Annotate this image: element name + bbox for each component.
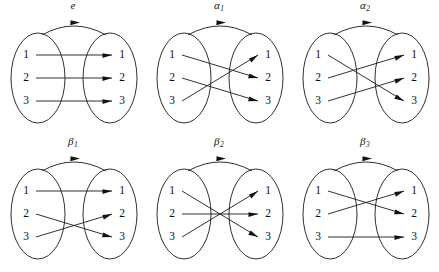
codomain-element-2: 2: [119, 71, 125, 83]
domain-element-3: 3: [315, 230, 321, 242]
codomain-element-2: 2: [265, 207, 271, 219]
arrowhead: [249, 212, 259, 217]
arrowhead: [216, 156, 226, 161]
codomain-ellipse: [83, 169, 137, 259]
arrowhead: [248, 97, 258, 102]
codomain-element-2: 2: [411, 71, 417, 83]
codomain-element-3: 3: [265, 230, 271, 242]
domain-element-3: 3: [23, 94, 29, 106]
map-arrow-1-to-2: [182, 55, 258, 78]
domain-element-3: 3: [169, 94, 175, 106]
arrowhead: [249, 191, 258, 199]
codomain-element-3: 3: [119, 94, 125, 106]
set-mapping-arc: [334, 162, 398, 171]
arrowhead: [102, 233, 112, 238]
codomain-element-1: 1: [119, 184, 125, 196]
codomain-element-3: 3: [119, 230, 125, 242]
codomain-element-3: 3: [411, 94, 417, 106]
codomain-element-3: 3: [265, 94, 271, 106]
set-mapping-arc: [188, 162, 252, 171]
domain-ellipse: [11, 169, 65, 259]
set-mapping-arc: [42, 162, 106, 171]
codomain-element-1: 1: [265, 184, 271, 196]
arrowhead: [395, 235, 405, 240]
domain-element-3: 3: [23, 230, 29, 242]
codomain-element-1: 1: [411, 184, 417, 196]
domain-ellipse: [157, 33, 211, 123]
domain-element-1: 1: [23, 184, 29, 196]
domain-ellipse: [303, 169, 357, 259]
set-mapping-arc: [334, 26, 398, 35]
domain-element-2: 2: [315, 71, 321, 83]
arrowhead: [394, 210, 404, 215]
arrowhead: [216, 20, 226, 25]
arrowhead: [103, 189, 113, 194]
domain-element-2: 2: [169, 71, 175, 83]
permutation-diagram-figure: e123123α1123123α2123123β1123123β2123123β…: [0, 0, 439, 272]
domain-element-1: 1: [169, 48, 175, 60]
codomain-element-1: 1: [411, 48, 417, 60]
codomain-element-2: 2: [119, 207, 125, 219]
domain-ellipse: [303, 33, 357, 123]
panel-beta1: β1123123: [0, 136, 146, 272]
arrowhead: [249, 55, 258, 63]
set-mapping-arc: [188, 26, 252, 35]
arrowhead: [70, 156, 80, 161]
map-arrow-3-to-2: [328, 78, 404, 101]
domain-element-1: 1: [23, 48, 29, 60]
panel-alpha2: α2123123: [292, 0, 438, 136]
panel-beta2: β2123123: [146, 136, 292, 272]
codomain-element-1: 1: [265, 48, 271, 60]
map-arrow-2-to-1: [328, 55, 404, 78]
panel-e: e123123: [0, 0, 146, 136]
domain-element-3: 3: [315, 94, 321, 106]
domain-element-1: 1: [315, 184, 321, 196]
arrowhead: [362, 156, 372, 161]
panel-beta3: β3123123: [292, 136, 438, 272]
arrowhead: [103, 76, 113, 81]
map-arrow-2-to-3: [182, 78, 258, 101]
domain-element-2: 2: [315, 207, 321, 219]
arrowhead: [103, 99, 113, 104]
codomain-element-2: 2: [265, 71, 271, 83]
codomain-element-1: 1: [119, 48, 125, 60]
codomain-element-3: 3: [411, 230, 417, 242]
set-mapping-arc: [42, 26, 106, 35]
arrowhead: [103, 53, 113, 58]
arrowhead: [394, 78, 404, 84]
arrowhead: [102, 214, 112, 220]
domain-element-1: 1: [169, 184, 175, 196]
arrowhead: [394, 191, 404, 197]
arrowhead: [362, 20, 372, 25]
arrowhead: [394, 55, 404, 61]
codomain-element-2: 2: [411, 207, 417, 219]
codomain-ellipse: [375, 33, 429, 123]
domain-element-2: 2: [169, 207, 175, 219]
map-arrow-3-to-1: [182, 55, 258, 101]
domain-element-2: 2: [23, 207, 29, 219]
arrowhead: [248, 74, 258, 79]
domain-element-1: 1: [315, 48, 321, 60]
map-arrow-1-to-3: [328, 55, 404, 101]
arrowhead: [70, 20, 80, 25]
domain-element-3: 3: [169, 230, 175, 242]
panel-alpha1: α1123123: [146, 0, 292, 136]
domain-element-2: 2: [23, 71, 29, 83]
